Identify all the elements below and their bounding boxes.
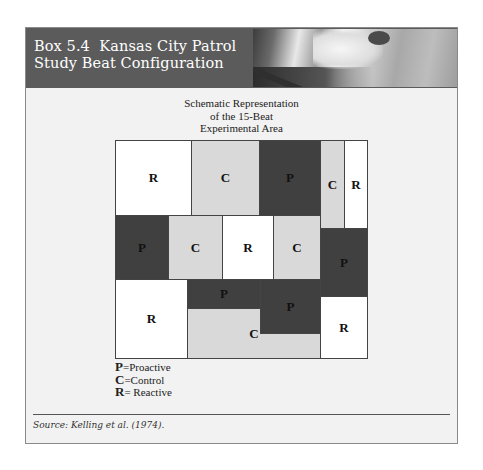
beat-cell-proactive: P xyxy=(320,228,368,297)
diagram-title-line3: Experimental Area xyxy=(26,122,457,135)
beat-cell-control: C xyxy=(168,215,223,280)
divider-rule xyxy=(33,414,450,415)
beat-cell-reactive: R xyxy=(115,279,188,359)
box-title: Box 5.4 Kansas City Patrol Study Beat Co… xyxy=(34,38,236,72)
box-title-line2: Study Beat Configuration xyxy=(34,55,236,72)
beat-cell-control: C xyxy=(273,215,321,280)
beat-cell-control: C xyxy=(320,140,345,229)
source-citation: Source: Kelling et al. (1974). xyxy=(33,420,164,430)
box-header: Box 5.4 Kansas City Patrol Study Beat Co… xyxy=(26,28,457,88)
info-box: Box 5.4 Kansas City Patrol Study Beat Co… xyxy=(25,27,458,444)
beat-cell-reactive: R xyxy=(115,140,192,216)
beat-cell-proactive: P xyxy=(187,279,261,309)
beat-grid: RCPCRPCRCPRCPPR xyxy=(115,140,368,359)
beat-cell-reactive: R xyxy=(344,140,368,229)
diagram-title-line1: Schematic Representation xyxy=(26,97,457,110)
legend-item-reactive: R= Reactive xyxy=(115,386,172,399)
box-title-line1: Box 5.4 Kansas City Patrol xyxy=(34,38,236,55)
beat-cell-control: C xyxy=(191,140,260,216)
header-photo xyxy=(253,29,457,87)
beat-cell-proactive: P xyxy=(259,140,321,216)
beat-cell-reactive: R xyxy=(222,215,274,280)
diagram-title: Schematic Representation of the 15-Beat … xyxy=(26,97,457,135)
beat-cell-proactive: P xyxy=(260,279,321,334)
beat-cell-reactive: R xyxy=(320,296,368,359)
diagram-title-line2: of the 15-Beat xyxy=(26,110,457,123)
beat-cell-proactive: P xyxy=(115,215,169,280)
legend: P=Proactive C=Control R= Reactive xyxy=(115,361,172,399)
